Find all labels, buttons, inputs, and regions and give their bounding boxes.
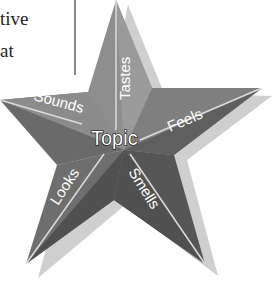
center-label-topic: Topic (91, 127, 138, 149)
label-tastes: Tastes (116, 57, 133, 100)
five-senses-star-diagram: Tastes Feels Smells Looks Sounds Topic (0, 0, 273, 284)
